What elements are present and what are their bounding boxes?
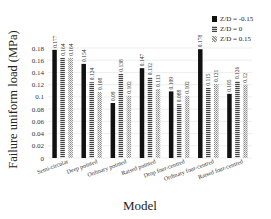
- dotted-swatch-icon: [212, 26, 217, 32]
- value-label: 0.108: [97, 77, 103, 90]
- legend-item-pos: Z/D = 0.15: [212, 34, 253, 44]
- bar: [185, 96, 190, 158]
- bar: [68, 58, 73, 158]
- legend-item-neg: Z/D = -0.15: [212, 14, 253, 24]
- legend-item-zero: Z/D = 0: [212, 24, 253, 34]
- value-label: 0.109: [168, 77, 174, 90]
- y-tick-label: 0.08: [32, 106, 45, 114]
- bar: [81, 64, 86, 158]
- y-tick-label: 0.06: [32, 118, 45, 126]
- value-label: 0.132: [147, 63, 153, 76]
- bar: [169, 91, 174, 158]
- value-label: 0.177: [52, 35, 58, 48]
- y-tick-label: 0.14: [32, 69, 45, 77]
- y-axis-label: Failure uniform load (MPa): [6, 25, 21, 175]
- bar: [148, 77, 153, 158]
- bar: [97, 92, 102, 158]
- bar: [235, 81, 240, 158]
- bar: [227, 94, 232, 158]
- value-label: 0.115: [205, 73, 211, 85]
- value-label: 0.113: [155, 75, 161, 87]
- bar: [156, 89, 161, 158]
- value-label: 0.121: [213, 69, 219, 82]
- value-label: 0.126: [234, 66, 240, 79]
- y-tick-label: 0: [41, 155, 45, 163]
- value-label: 0.12: [242, 73, 248, 83]
- y-tick-label: 0.16: [32, 57, 45, 65]
- value-label: 0.09: [110, 91, 116, 101]
- bar: [177, 104, 182, 158]
- value-label: 0.102: [184, 81, 190, 94]
- bar: [60, 58, 64, 158]
- value-label: 0.164: [68, 43, 74, 56]
- bar: [140, 68, 145, 158]
- bar: [111, 103, 116, 158]
- value-label: 0.178: [197, 35, 203, 48]
- y-tick-label: 0.18: [32, 45, 45, 53]
- hatched-swatch-icon: [212, 36, 217, 42]
- value-label: 0.154: [81, 49, 87, 62]
- value-label: 0.147: [139, 54, 145, 67]
- value-label: 0.124: [89, 68, 95, 81]
- y-tick-label: 0.12: [32, 81, 45, 89]
- bar-chart: 00.020.040.060.080.10.120.140.160.180.17…: [0, 0, 271, 219]
- bar: [214, 84, 219, 158]
- y-tick-label: 0.02: [32, 142, 45, 150]
- value-label: 0.164: [60, 43, 66, 56]
- bar: [198, 49, 203, 158]
- y-tick-label: 0.04: [32, 130, 45, 138]
- value-label: 0.088: [176, 90, 182, 103]
- y-tick-label: 0.1: [35, 93, 44, 101]
- bar: [52, 50, 57, 158]
- value-label: 0.102: [126, 81, 132, 94]
- bar: [89, 82, 94, 158]
- x-axis-label: Model: [110, 198, 170, 214]
- legend: Z/D = -0.15 Z/D = 0 Z/D = 0.15: [212, 14, 253, 44]
- bar: [206, 88, 211, 158]
- solid-swatch-icon: [212, 16, 217, 22]
- bar: [243, 85, 248, 158]
- bar: [127, 96, 132, 158]
- value-label: 0.138: [118, 59, 124, 72]
- value-label: 0.105: [226, 79, 232, 92]
- bar: [119, 74, 124, 158]
